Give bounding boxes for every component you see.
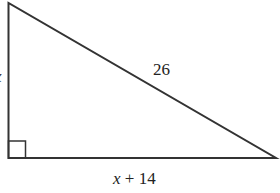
triangle-diagram <box>0 0 280 193</box>
base-label-constant: + 14 <box>121 169 156 188</box>
right-triangle <box>9 3 277 158</box>
hypotenuse-label: 26 <box>153 61 170 78</box>
base-label-variable: x <box>113 169 121 188</box>
base-label: x + 14 <box>113 170 156 187</box>
height-label: x <box>0 68 2 85</box>
right-angle-marker <box>9 141 26 158</box>
